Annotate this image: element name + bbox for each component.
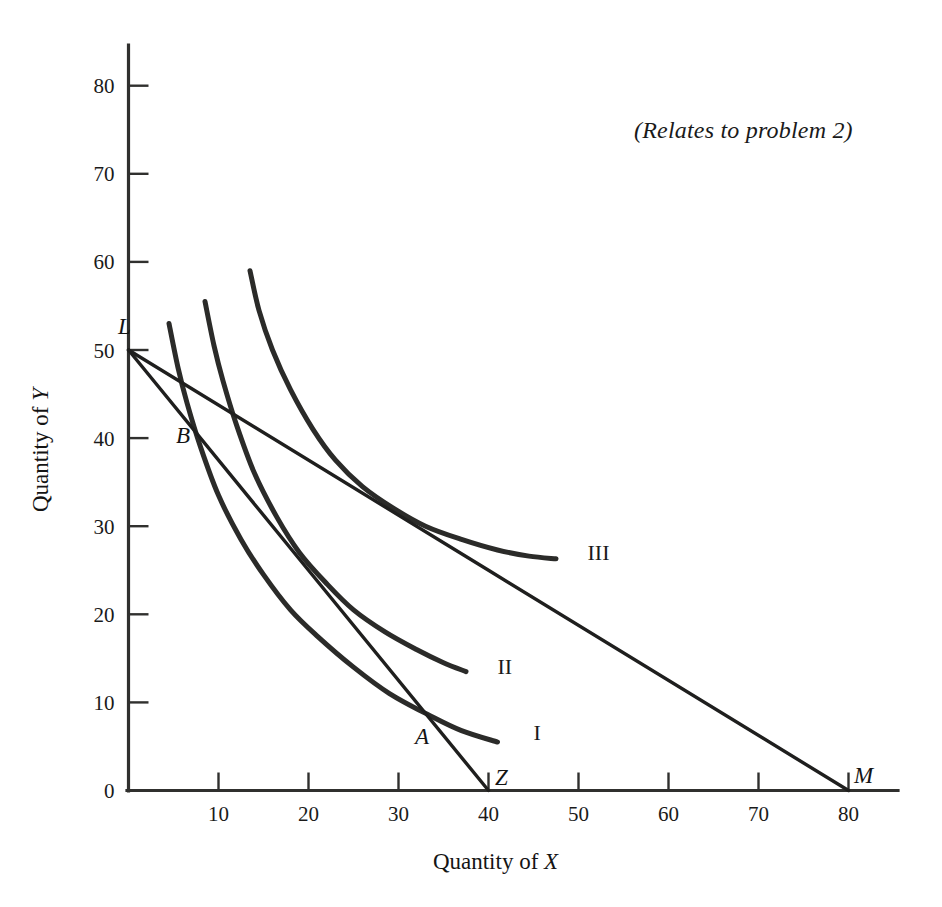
y-tick-label-10: 10 bbox=[94, 691, 115, 715]
x-axis-tick-labels: 1020304050607080 bbox=[208, 802, 859, 826]
curve-end-labels: IIIIII bbox=[498, 540, 610, 746]
x-tick-label-80: 80 bbox=[838, 802, 859, 826]
x-tick-label-70: 70 bbox=[748, 802, 769, 826]
indifference-curve-iii bbox=[250, 271, 556, 559]
budget-line-lm bbox=[129, 350, 849, 791]
point-label-m: M bbox=[853, 763, 875, 788]
budget-line-lz bbox=[129, 350, 489, 791]
x-tick-label-10: 10 bbox=[208, 802, 229, 826]
y-tick-label-60: 60 bbox=[94, 250, 115, 274]
y-tick-label-70: 70 bbox=[94, 162, 115, 186]
x-axis-ticks bbox=[219, 773, 849, 791]
curve-label-iii: III bbox=[588, 540, 610, 565]
y-tick-label-20: 20 bbox=[94, 603, 115, 627]
y-axis-title: Quantity of Y bbox=[28, 386, 53, 512]
x-tick-label-60: 60 bbox=[658, 802, 679, 826]
y-tick-label-50: 50 bbox=[94, 339, 115, 363]
x-tick-label-40: 40 bbox=[478, 802, 499, 826]
point-label-b: B bbox=[176, 423, 190, 448]
point-label-z: Z bbox=[495, 765, 508, 790]
chart-canvas: 01020304050607080 1020304050607080 IIIII… bbox=[0, 0, 942, 907]
curve-label-i: I bbox=[534, 720, 541, 745]
y-axis-ticks bbox=[129, 86, 149, 703]
x-axis-title: Quantity of X bbox=[433, 849, 559, 874]
curve-label-ii: II bbox=[498, 654, 513, 679]
point-label-a: A bbox=[413, 724, 430, 749]
x-tick-label-30: 30 bbox=[388, 802, 409, 826]
figure-page: (Relates to problem 2) 01020304050607080… bbox=[0, 0, 942, 907]
y-tick-label-40: 40 bbox=[94, 427, 115, 451]
indifference-curve-ii bbox=[205, 302, 466, 672]
y-tick-label-80: 80 bbox=[94, 74, 115, 98]
y-tick-label-0: 0 bbox=[104, 779, 115, 803]
x-tick-label-20: 20 bbox=[298, 802, 319, 826]
y-tick-label-30: 30 bbox=[94, 515, 115, 539]
budget-lines bbox=[129, 350, 849, 791]
point-label-l: L bbox=[117, 314, 131, 339]
x-tick-label-50: 50 bbox=[568, 802, 589, 826]
y-axis-tick-labels: 01020304050607080 bbox=[94, 74, 115, 803]
